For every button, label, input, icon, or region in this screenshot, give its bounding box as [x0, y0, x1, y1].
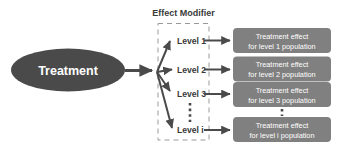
outcome-box-3-line2: for level 3 population	[248, 96, 315, 105]
outcome-box-1-line1: Treatment effect	[256, 32, 309, 41]
level-label-3: Level 3	[177, 89, 206, 99]
outcome-box-i-line1: Treatment effect	[256, 121, 309, 130]
outcome-box-2-line2: for level 2 population	[248, 70, 315, 79]
connector-fan-to-level-2	[157, 70, 172, 73]
connector-fan-to-level-i	[157, 72, 172, 128]
outcome-box-2-line1: Treatment effect	[256, 60, 309, 69]
effect-modifier-title: Effect Modifier	[152, 8, 215, 18]
diagram-canvas: Effect Modifier Treatment Level 1 Level …	[0, 0, 339, 153]
level-label-1: Level 1	[177, 36, 206, 46]
effect-modifier-diagram: Effect Modifier Treatment Level 1 Level …	[0, 0, 339, 153]
outcome-box-1-line2: for level 1 population	[248, 42, 315, 51]
level-label-2: Level 2	[177, 65, 206, 75]
treatment-node-label: Treatment	[38, 64, 99, 78]
level-label-i: Level i	[177, 125, 204, 135]
outcome-box-i-line2: for level i population	[250, 131, 315, 140]
outcome-box-3-line1: Treatment effect	[256, 86, 309, 95]
connector-fan-to-level-1	[157, 41, 170, 72]
